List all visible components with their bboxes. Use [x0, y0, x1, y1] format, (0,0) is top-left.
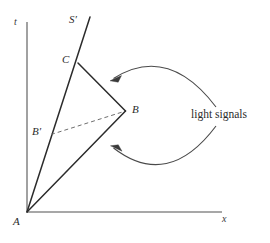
x-axis-label: x [222, 214, 226, 224]
light-ray-a-to-b [27, 111, 126, 212]
point-label-b: B [132, 104, 139, 115]
point-label-a: A [13, 216, 20, 227]
upper-light-signal-arc [110, 66, 216, 107]
worldline-s-prime [27, 17, 90, 212]
light-ray-b-to-c [78, 63, 126, 111]
t-axis-label: t [14, 17, 17, 27]
point-label-c: C [62, 54, 69, 65]
spacetime-diagram-figure: t x S′ C B B′ A light signals [0, 0, 270, 243]
lower-light-signal-arc [111, 126, 217, 165]
diagram-canvas [0, 0, 270, 243]
point-label-b-prime: B′ [32, 126, 41, 137]
light-signals-annotation: light signals [191, 109, 247, 121]
worldline-s-prime-label: S′ [69, 14, 77, 25]
